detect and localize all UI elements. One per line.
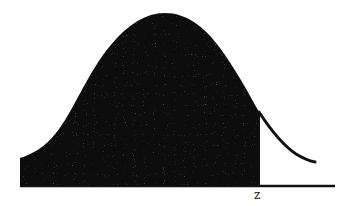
curve-tail bbox=[259, 112, 315, 162]
bell-curve-svg bbox=[0, 0, 356, 206]
shaded-area bbox=[20, 13, 259, 186]
normal-curve-figure: z bbox=[0, 0, 356, 206]
z-label: z bbox=[254, 188, 260, 202]
